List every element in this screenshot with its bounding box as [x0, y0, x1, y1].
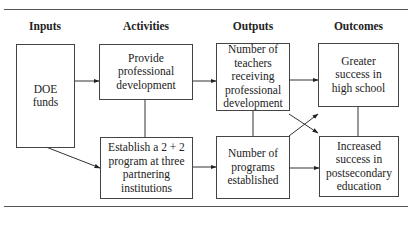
- node-establish-program: Establish a 2 + 2 program at three partn…: [100, 137, 193, 199]
- node-increased-success-label: Increased success in postsecondary educa…: [321, 140, 397, 194]
- node-establish-program-label: Establish a 2 + 2 program at three partn…: [103, 141, 191, 195]
- node-doe-funds: DOE funds: [16, 44, 75, 148]
- node-provide-pd-label: Provide professional development: [106, 52, 186, 93]
- node-num-teachers-label: Number of teachers receiving professiona…: [217, 43, 289, 111]
- edge-doe-to-establish: [46, 147, 100, 168]
- node-num-programs-label: Number of programs established: [222, 147, 284, 188]
- node-greater-success: Greater success in high school: [318, 43, 399, 107]
- node-greater-success-label: Greater success in high school: [327, 55, 391, 96]
- node-provide-pd: Provide professional development: [99, 44, 193, 100]
- node-num-teachers: Number of teachers receiving professiona…: [216, 43, 290, 111]
- node-num-programs: Number of programs established: [216, 136, 290, 199]
- node-increased-success: Increased success in postsecondary educa…: [319, 136, 399, 197]
- node-doe-funds-label: DOE funds: [29, 83, 63, 110]
